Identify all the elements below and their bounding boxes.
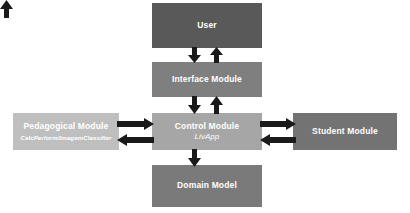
arrow-student-to-control [260,134,296,146]
arrow-control-to-domain [188,149,201,167]
node-domain-model-label: Domain Model [177,181,237,191]
node-user[interactable]: User [152,3,262,48]
node-student-module-label: Student Module [312,127,378,137]
node-student-module[interactable]: Student Module [293,113,397,150]
arrow-domain-to-control [0,0,13,18]
node-pedagogical-module[interactable]: Pedagogical Module CalcPerform/ImagemCla… [13,113,119,150]
node-user-label: User [197,21,217,31]
arrow-control-to-interface [210,96,223,114]
arrow-interface-to-control [188,96,201,114]
node-interface-module-label: Interface Module [172,75,242,85]
node-interface-module[interactable]: Interface Module [152,62,262,97]
arrow-pedagogical-to-control [117,118,154,130]
arrow-interface-to-user [210,47,223,63]
node-control-module-sublabel: LivApp [195,132,220,141]
arrow-control-to-pedagogical [117,134,154,146]
node-pedagogical-module-sublabel: CalcPerform/ImagemClassifier [20,134,111,141]
node-control-module-label: Control Module [175,122,239,132]
arrow-user-to-interface [188,47,201,63]
node-control-module[interactable]: Control Module LivApp [152,113,262,150]
arrow-control-to-student [260,118,296,130]
node-pedagogical-module-label: Pedagogical Module [24,122,109,132]
diagram-canvas: User Interface Module Pedagogical Module… [0,0,410,213]
node-domain-model[interactable]: Domain Model [152,165,262,207]
